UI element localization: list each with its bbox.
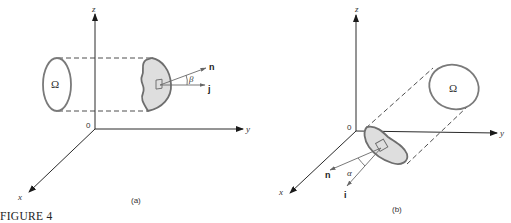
x-axis-label-b: x	[278, 187, 283, 197]
x-axis-label-a: x	[17, 192, 22, 202]
angle-arc-a	[186, 75, 187, 85]
normal-vector-b	[330, 148, 381, 170]
cylinder-top-edge-b	[366, 68, 433, 128]
omega-label-b: Ω	[449, 82, 457, 94]
x-axis-a	[29, 129, 95, 192]
x-axis-b	[290, 131, 356, 193]
angle-label-beta: β	[188, 74, 194, 84]
normal-label-a: n	[209, 62, 215, 72]
origin-label-a: 0	[86, 121, 91, 130]
y-axis-label-a: y	[245, 124, 250, 134]
omega-label-a: Ω	[51, 78, 59, 90]
angle-arc-b	[358, 158, 365, 166]
cylinder-bottom-edge-b	[407, 107, 467, 164]
unit-vector-label-i: i	[344, 190, 347, 200]
panel-label-b: (b)	[392, 205, 402, 214]
figure-caption: FIGURE 4	[0, 210, 53, 222]
y-axis-label-b: y	[499, 128, 504, 138]
figure-canvas: z y x 0 Ω n j β (a) z y x 0	[0, 0, 511, 223]
panel-label-a: (a)	[131, 196, 141, 205]
z-axis-label-a: z	[91, 4, 96, 14]
unit-vector-label-j: j	[207, 84, 211, 94]
angle-label-alpha: α	[347, 168, 352, 178]
origin-label-b: 0	[347, 123, 352, 132]
unit-vector-i	[347, 148, 381, 186]
z-axis-label-b: z	[354, 4, 359, 14]
normal-label-b: n	[325, 170, 331, 180]
panel-b: z y x 0 Ω n i α (b)	[278, 4, 504, 214]
panel-a: z y x 0 Ω n j β (a)	[17, 4, 250, 205]
surface-patch-b	[365, 127, 408, 164]
